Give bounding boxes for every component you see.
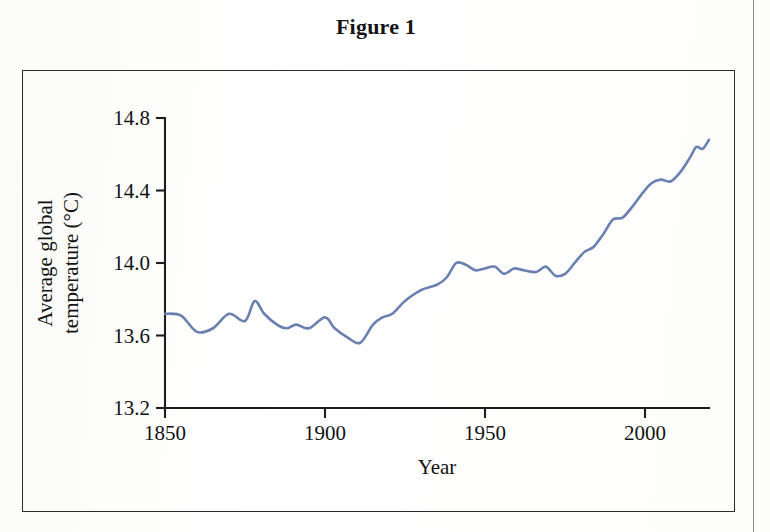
y-tick-label: 13.6 — [113, 324, 150, 348]
x-tick-label: 2000 — [624, 421, 666, 445]
x-tick-label: 1950 — [464, 421, 506, 445]
y-tick-label: 14.4 — [113, 179, 150, 203]
y-tick-label: 14.8 — [113, 106, 150, 130]
y-axis-title-line-1: Average global — [33, 199, 57, 326]
temperature-line-chart: 13.213.614.014.414.8 1850190019502000 Ye… — [0, 0, 770, 532]
temperature-series-line — [165, 140, 709, 343]
x-tick-labels: 1850190019502000 — [144, 421, 666, 445]
x-axis-title: Year — [418, 455, 457, 479]
data-series-group — [165, 140, 709, 343]
page-canvas: Figure 1 13.213.614.014.414.8 1850190019… — [0, 0, 770, 532]
y-axis-title-line-2: temperature (°C) — [59, 192, 83, 334]
axis-titles-group: Year Average global temperature (°C) — [33, 192, 456, 479]
x-axis-group: 1850190019502000 — [144, 408, 709, 445]
y-tick-label: 13.2 — [113, 396, 150, 420]
y-tick-label: 14.0 — [113, 251, 150, 275]
x-tick-label: 1850 — [144, 421, 186, 445]
x-tick-label: 1900 — [304, 421, 346, 445]
y-axis-group: 13.213.614.014.414.8 — [113, 106, 165, 420]
y-tick-labels: 13.213.614.014.414.8 — [113, 106, 150, 420]
y-tick-marks — [156, 118, 165, 408]
x-tick-marks — [165, 408, 645, 418]
page-edge-rule — [753, 0, 754, 532]
